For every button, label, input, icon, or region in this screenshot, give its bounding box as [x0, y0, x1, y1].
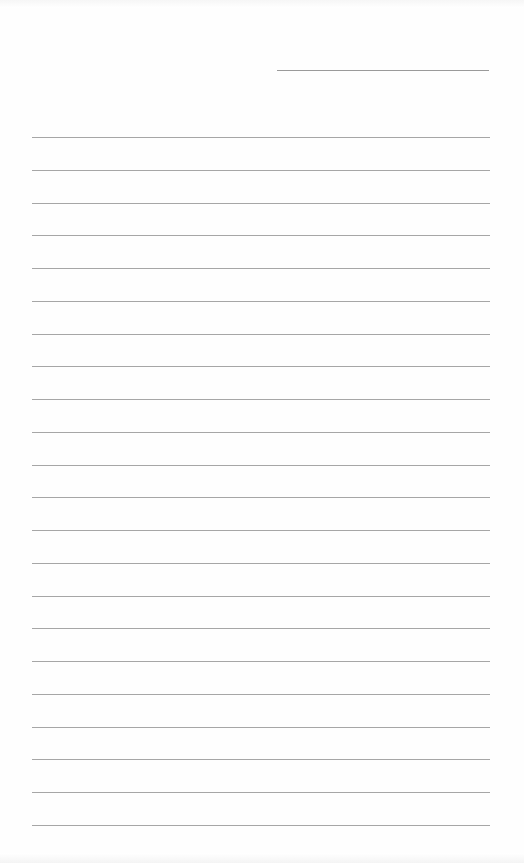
ruled-line: [32, 235, 490, 236]
bleed-through-top: [0, 0, 524, 8]
ruled-line: [32, 432, 490, 433]
ruled-line: [32, 661, 490, 662]
ruled-line: [32, 203, 490, 204]
ruled-line: [32, 563, 490, 564]
ruled-line: [32, 792, 490, 793]
ruled-line: [32, 727, 490, 728]
ruled-line: [32, 825, 490, 826]
name-date-line: [277, 70, 489, 71]
ruled-line: [32, 497, 490, 498]
ruled-line: [32, 596, 490, 597]
ruled-line: [32, 759, 490, 760]
ruled-line: [32, 694, 490, 695]
ruled-line: [32, 334, 490, 335]
ruled-line: [32, 268, 490, 269]
ruled-line: [32, 137, 490, 138]
ruled-line: [32, 628, 490, 629]
ruled-line: [32, 530, 490, 531]
ruled-line: [32, 170, 490, 171]
lined-paper-page: [0, 0, 524, 863]
ruled-line: [32, 366, 490, 367]
ruled-line: [32, 465, 490, 466]
ruled-line: [32, 399, 490, 400]
ruled-line: [32, 301, 490, 302]
bleed-through-bottom: [0, 853, 524, 863]
